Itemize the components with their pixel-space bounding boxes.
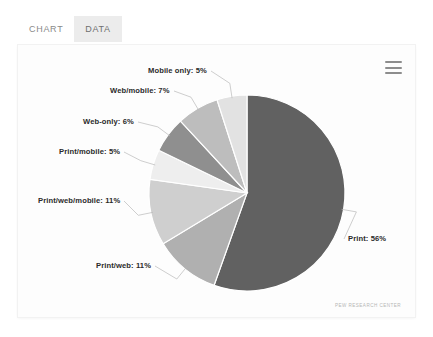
label-web-mobile: Web/mobile: 7% <box>110 86 170 95</box>
leader-line <box>138 122 170 136</box>
label-print-mobile: Print/mobile: 5% <box>59 147 120 156</box>
label-mobile-only: Mobile only: 5% <box>148 66 207 75</box>
footer-credit: PEW RESEARCH CENTER <box>335 303 401 308</box>
chart-card: Print: 56%Print/web: 11%Print/web/mobile… <box>18 45 415 317</box>
leader-line <box>211 71 232 98</box>
leader-line <box>155 266 186 279</box>
leader-line <box>124 201 153 215</box>
tab-chart[interactable]: CHART <box>18 16 74 42</box>
leader-line <box>124 152 155 165</box>
label-web-only: Web-only: 6% <box>83 117 134 126</box>
pie-chart: Print: 56%Print/web: 11%Print/web/mobile… <box>18 45 415 317</box>
label-print-web-mobile: Print/web/mobile: 11% <box>38 196 120 205</box>
chart-data-tab-bar: CHART DATA <box>18 16 122 42</box>
pie-chart-svg <box>18 45 415 317</box>
label-print: Print: 56% <box>348 234 386 243</box>
leader-line <box>174 91 199 110</box>
tab-data[interactable]: DATA <box>74 16 121 42</box>
label-print-web: Print/web: 11% <box>96 261 151 270</box>
pie-slices <box>149 95 345 291</box>
